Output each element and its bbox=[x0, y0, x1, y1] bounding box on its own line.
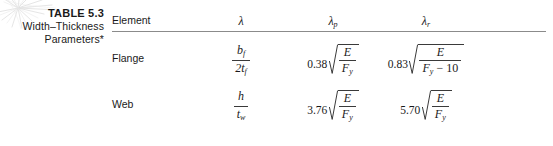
table-row: Flange bbox=[112, 52, 202, 64]
fraction-denominator: Fy bbox=[339, 62, 356, 77]
column-header-lambda-r: λr bbox=[374, 14, 478, 29]
fraction-denominator: Fy − 10 bbox=[419, 62, 461, 77]
row-label-web: Web bbox=[112, 98, 133, 110]
square-root: E Fy − 10 bbox=[409, 44, 464, 78]
square-root: E Fy bbox=[329, 90, 359, 124]
fraction-numerator: bf bbox=[234, 44, 248, 59]
radical-hook-icon bbox=[329, 90, 338, 124]
header-rule bbox=[112, 31, 546, 32]
square-root: E Fy bbox=[329, 44, 359, 78]
fraction-E-Fy: E Fy bbox=[432, 92, 449, 124]
row-label-flange: Flange bbox=[112, 52, 144, 64]
lambda-symbol: λ bbox=[238, 14, 243, 28]
fraction-h-tw: h tw bbox=[234, 90, 249, 124]
fraction-numerator: h bbox=[235, 90, 247, 105]
fraction-E-Fy: E Fy bbox=[339, 46, 356, 78]
fraction-numerator: E bbox=[434, 92, 447, 105]
fraction-denominator: 2tf bbox=[232, 62, 250, 77]
cell-flange-lambda-p: 0.38 E Fy bbox=[287, 44, 379, 78]
cell-flange-lambda: bf 2tf bbox=[196, 44, 286, 78]
width-thickness-parameters-table: Element λ λp λr Flange bf 2tf 0.38 bbox=[112, 0, 546, 146]
fraction-denominator: Fy bbox=[432, 108, 449, 123]
radical-hook-icon bbox=[409, 44, 418, 78]
cell-web-lambda-r: 5.70 E Fy bbox=[374, 90, 478, 124]
lambda-r-symbol: λr bbox=[422, 14, 430, 28]
table-row: Web bbox=[112, 98, 202, 110]
square-root: E Fy bbox=[422, 90, 452, 124]
coefficient: 3.76 bbox=[307, 104, 327, 116]
coefficient: 5.70 bbox=[400, 104, 420, 116]
caption-line-2: Width–Thickness bbox=[0, 20, 104, 33]
caption-line-3: Parameters* bbox=[0, 33, 104, 46]
coefficient: 0.38 bbox=[307, 58, 327, 70]
coefficient: 0.83 bbox=[388, 58, 408, 70]
radical-hook-icon bbox=[329, 44, 338, 78]
cell-web-lambda-p: 3.76 E Fy bbox=[287, 90, 379, 124]
fraction-denominator: tw bbox=[234, 108, 249, 123]
radicand: E Fy bbox=[338, 90, 359, 124]
fraction-denominator: Fy bbox=[339, 108, 356, 123]
cell-web-lambda: h tw bbox=[196, 90, 286, 124]
table-caption: TABLE 5.3 Width–Thickness Parameters* bbox=[0, 7, 104, 47]
fraction-E-Fy: E Fy bbox=[339, 92, 356, 124]
radicand: E Fy bbox=[431, 90, 452, 124]
table-number: TABLE 5.3 bbox=[0, 7, 104, 20]
fraction-E-Fy-minus-10: E Fy − 10 bbox=[419, 46, 461, 78]
fraction-numerator: E bbox=[341, 92, 354, 105]
lambda-p-symbol: λp bbox=[328, 14, 337, 28]
column-header-lambda: λ bbox=[196, 14, 286, 29]
fraction-numerator: E bbox=[341, 46, 354, 59]
radicand: E Fy − 10 bbox=[418, 44, 464, 78]
fraction-numerator: E bbox=[434, 46, 447, 59]
fraction-bf-2tf: bf 2tf bbox=[232, 44, 250, 78]
radical-hook-icon bbox=[422, 90, 431, 124]
cell-flange-lambda-r: 0.83 E Fy − 10 bbox=[374, 44, 478, 78]
radicand: E Fy bbox=[338, 44, 359, 78]
column-header-element: Element bbox=[112, 14, 202, 26]
column-header-lambda-p: λp bbox=[287, 14, 379, 29]
